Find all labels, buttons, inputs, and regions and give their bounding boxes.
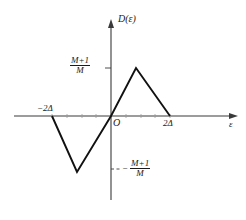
y-tick-label-negative: − M+1 M xyxy=(122,159,150,179)
y-axis xyxy=(108,19,114,200)
fraction-positive: M+1 M xyxy=(70,56,90,76)
y-axis-label: D(ε) xyxy=(118,14,136,24)
origin-label: O xyxy=(113,118,120,128)
figure-container: D(ε) ε O −2Δ 2Δ M+1 M − M+1 M xyxy=(0,0,246,220)
y-tick-negative-sign: − xyxy=(122,164,130,173)
x-axis-label: ε xyxy=(229,120,233,129)
y-tick-label-positive: M+1 M xyxy=(68,56,90,76)
fraction-negative: M+1 M xyxy=(130,159,150,179)
x-tick-label-negative-2delta: −2Δ xyxy=(37,104,53,113)
fraction-denominator: M xyxy=(70,66,90,75)
x-tick-label-positive-2delta: 2Δ xyxy=(163,119,173,128)
fraction-denominator: M xyxy=(130,169,150,178)
